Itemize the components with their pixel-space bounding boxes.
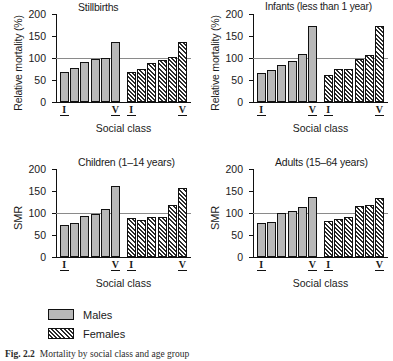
legend-label: Females (83, 328, 125, 340)
y-tick-label: 50 (34, 230, 46, 240)
bar-females-IV (168, 57, 177, 102)
bar-females-II (334, 219, 343, 257)
bar-males-V (308, 26, 317, 102)
y-tick: 150 (52, 191, 56, 192)
x-axis-title: Social class (56, 277, 191, 289)
bar-females-IIIM (158, 60, 167, 102)
y-tick: 150 (249, 191, 253, 192)
bar-females-I (127, 72, 136, 102)
y-tick: 150 (249, 36, 253, 37)
bar-females-II (137, 220, 146, 257)
figure-mortality-by-social-class: Relative mortality (%) Stillbirths 05010… (0, 0, 393, 361)
bar-females-I (324, 221, 333, 257)
bar-females-IV (365, 55, 374, 102)
y-tick: 50 (52, 80, 56, 81)
chart-panel-adults: SMR Adults (15–64 years) 050100150200 IV… (197, 155, 393, 305)
bar-males-IV (101, 58, 110, 102)
bar-females-II (334, 69, 343, 102)
chart-panel-infants: Relative mortality (%) Infants (less tha… (197, 0, 393, 150)
x-tick-label-females-I: I (324, 259, 333, 271)
y-tick-label: 200 (28, 164, 46, 174)
y-tick-label: 100 (28, 53, 46, 63)
bar-males-I (60, 225, 69, 257)
bar-males-I (257, 223, 266, 257)
y-tick-label: 200 (28, 9, 46, 19)
y-tick-label: 100 (225, 208, 243, 218)
y-axis-title: SMR (209, 159, 222, 277)
y-tick: 200 (52, 169, 56, 170)
y-tick-label: 200 (225, 164, 243, 174)
y-tick-label: 200 (225, 9, 243, 19)
bar-females-IIIN (344, 69, 353, 102)
legend-label: Males (83, 309, 112, 321)
bar-females-V (178, 188, 187, 257)
y-tick-label: 0 (40, 252, 46, 262)
y-axis-title: Relative mortality (%) (12, 4, 25, 122)
chart-title: Children (1–14 years) (78, 156, 175, 168)
y-tick: 200 (52, 14, 56, 15)
x-tick-label-males-V: V (111, 104, 120, 116)
y-tick-label: 150 (28, 186, 46, 196)
chart-panel-children: SMR Children (1–14 years) 050100150200 I… (0, 155, 196, 305)
y-tick: 50 (249, 235, 253, 236)
y-tick-label: 100 (28, 208, 46, 218)
bar-group-container (57, 169, 191, 257)
x-tick-label-females-V: V (178, 259, 187, 271)
bar-males-V (111, 186, 120, 257)
bar-males-II (267, 222, 276, 257)
plot-area-children: Children (1–14 years) 050100150200 IVIV … (56, 169, 191, 257)
figure-caption-text: Mortality by social class and age group (40, 349, 189, 359)
chart-title: Infants (less than 1 year) (265, 1, 372, 13)
x-tick-label-females-I: I (127, 259, 136, 271)
y-tick: 0 (249, 257, 253, 258)
y-tick: 200 (249, 169, 253, 170)
x-axis-tick-labels: IVIV (254, 104, 388, 118)
hatched-swatch-icon (48, 328, 74, 339)
bar-females-IIIN (344, 217, 353, 257)
x-tick-label-males-V: V (308, 104, 317, 116)
y-tick: 0 (249, 102, 253, 103)
bar-males-IV (298, 207, 307, 257)
y-tick: 50 (249, 80, 253, 81)
plot-area-adults: Adults (15–64 years) 050100150200 IVIV S… (253, 169, 388, 257)
bar-group-container (57, 14, 191, 102)
x-tick-label-females-I: I (324, 104, 333, 116)
y-axis-title: SMR (12, 159, 25, 277)
bar-males-II (70, 223, 79, 257)
y-tick-label: 150 (225, 186, 243, 196)
figure-caption: Fig. 2.2Mortality by social class and ag… (5, 348, 335, 360)
y-tick-label: 0 (237, 252, 243, 262)
x-tick-label-females-V: V (375, 104, 384, 116)
x-tick-label-males-I: I (257, 259, 266, 271)
x-axis-line (253, 257, 388, 258)
bar-males-IIIM (288, 61, 297, 102)
y-tick-label: 0 (237, 97, 243, 107)
x-tick-label-males-I: I (60, 104, 69, 116)
bar-females-V (375, 26, 384, 102)
legend-item-females: Females (48, 326, 188, 341)
x-tick-label-females-V: V (178, 104, 187, 116)
solid-grey-swatch-icon (48, 309, 74, 320)
bar-males-IIIM (288, 211, 297, 257)
bar-males-IIIN (80, 216, 89, 257)
x-tick-label-males-V: V (308, 259, 317, 271)
x-tick-label-males-I: I (257, 104, 266, 116)
bar-group-container (254, 14, 388, 102)
bar-group-container (254, 169, 388, 257)
bar-males-I (257, 73, 266, 102)
y-tick-label: 150 (225, 31, 243, 41)
bar-females-V (375, 198, 384, 257)
x-tick-label-males-I: I (60, 259, 69, 271)
chart-panel-stillbirths: Relative mortality (%) Stillbirths 05010… (0, 0, 196, 150)
x-tick-label-females-V: V (375, 259, 384, 271)
plot-area-stillbirths: Stillbirths 050100150200 IVIV Social cla… (56, 14, 191, 102)
y-tick: 200 (249, 14, 253, 15)
chart-title: Adults (15–64 years) (275, 156, 368, 168)
bar-females-IV (168, 205, 177, 257)
x-axis-tick-labels: IVIV (254, 259, 388, 273)
bar-females-IIIN (147, 217, 156, 257)
x-tick-label-males-V: V (111, 259, 120, 271)
bar-males-II (267, 70, 276, 102)
bar-females-IIIM (355, 59, 364, 102)
y-tick: 0 (52, 257, 56, 258)
